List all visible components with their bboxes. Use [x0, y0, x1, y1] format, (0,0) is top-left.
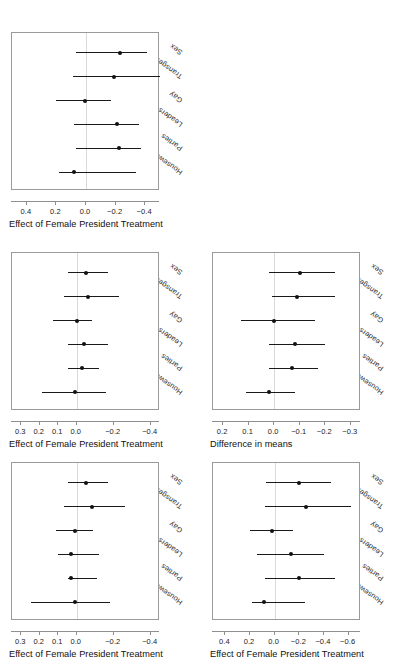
- x-axis-tick: [55, 201, 56, 205]
- estimate-point: [69, 576, 73, 580]
- zero-reference-line: [275, 463, 276, 619]
- x-axis-tick-label: −0.4: [315, 637, 330, 646]
- category-label: Parties: [159, 352, 184, 373]
- x-axis-title: Effect of Female President Treatment: [9, 439, 163, 449]
- x-axis-tick: [57, 631, 58, 635]
- estimate-point: [262, 600, 266, 604]
- x-axis-tick-label: 0.0: [268, 637, 279, 646]
- x-axis-tick-label: 0.1: [52, 427, 63, 436]
- x-axis-tick-label: −0.4: [137, 207, 152, 216]
- x-axis-tick-label: 0.3: [15, 427, 26, 436]
- x-axis-tick: [324, 421, 325, 425]
- category-label: Sex: [168, 472, 184, 487]
- estimate-point: [112, 75, 116, 79]
- category-label: Sex: [168, 42, 184, 57]
- plot-area: [11, 252, 159, 410]
- x-axis-title: Effect of Female President Treatment: [9, 649, 163, 657]
- estimate-point: [272, 319, 276, 323]
- x-axis-tick: [249, 631, 250, 635]
- x-axis-tick-label: 0.2: [217, 427, 228, 436]
- x-axis-tick: [113, 631, 114, 635]
- x-axis-tick: [350, 421, 351, 425]
- confidence-interval-line: [73, 76, 160, 77]
- estimate-point: [304, 505, 308, 509]
- x-axis-tick: [298, 631, 299, 635]
- estimate-point: [69, 552, 73, 556]
- x-axis-tick: [273, 421, 274, 425]
- x-axis-tick-label: −0.6: [340, 637, 355, 646]
- x-axis-tick: [348, 631, 349, 635]
- confidence-interval-line: [272, 296, 336, 297]
- x-axis-tick: [85, 201, 86, 205]
- estimate-point: [115, 122, 119, 126]
- forest-plot-figure: SexTransgenderGayLeadersPartiesHousework…: [0, 0, 405, 657]
- plot-area: [11, 462, 159, 620]
- estimate-point: [80, 366, 84, 370]
- x-axis-tick-label: 0.2: [33, 427, 44, 436]
- x-axis-tick-label: 0.2: [244, 637, 255, 646]
- confidence-interval-line: [74, 124, 139, 125]
- x-axis-tick: [39, 631, 40, 635]
- x-axis-tick-label: −0.2: [107, 207, 122, 216]
- confidence-interval-line: [59, 172, 136, 173]
- x-axis-tick-label: −0.3: [342, 427, 357, 436]
- estimate-point: [289, 552, 293, 556]
- confidence-interval-line: [64, 296, 120, 297]
- estimate-point: [290, 366, 294, 370]
- confidence-interval-line: [31, 602, 111, 603]
- x-axis-tick-label: 0.0: [70, 637, 81, 646]
- x-axis-line: [212, 421, 360, 422]
- confidence-interval-line: [53, 320, 92, 321]
- x-axis-tick-label: 0.1: [52, 637, 63, 646]
- category-label: Leaders: [156, 105, 184, 128]
- confidence-interval-line: [58, 554, 99, 555]
- plot-area: [212, 252, 360, 410]
- x-axis-title: Difference in means: [210, 439, 293, 449]
- confidence-interval-line: [64, 506, 125, 507]
- zero-reference-line: [86, 33, 87, 189]
- estimate-point: [270, 529, 274, 533]
- x-axis-tick: [26, 201, 27, 205]
- x-axis-tick: [76, 631, 77, 635]
- x-axis-tick-label: −0.4: [142, 637, 157, 646]
- x-axis-tick: [113, 421, 114, 425]
- category-label: Gay: [167, 310, 184, 325]
- confidence-interval-line: [265, 506, 351, 507]
- x-axis-tick-label: −0.4: [142, 427, 157, 436]
- confidence-interval-line: [269, 344, 325, 345]
- estimate-point: [267, 390, 271, 394]
- category-label: Parties: [360, 352, 385, 373]
- zero-reference-line: [77, 253, 78, 409]
- estimate-point: [75, 319, 79, 323]
- confidence-interval-line: [269, 272, 335, 273]
- zero-reference-line: [77, 463, 78, 619]
- estimate-point: [82, 342, 86, 346]
- x-axis-tick: [299, 421, 300, 425]
- x-axis-tick: [20, 631, 21, 635]
- category-label: Parties: [159, 562, 184, 583]
- confidence-interval-line: [241, 320, 315, 321]
- x-axis-line: [11, 421, 159, 422]
- estimate-point: [90, 505, 94, 509]
- x-axis-tick: [323, 631, 324, 635]
- x-axis-tick-label: −0.2: [105, 637, 120, 646]
- x-axis-tick: [20, 421, 21, 425]
- x-axis-tick: [115, 201, 116, 205]
- zero-reference-line: [274, 253, 275, 409]
- estimate-point: [86, 295, 90, 299]
- x-axis-tick: [57, 421, 58, 425]
- category-label: Leaders: [156, 325, 184, 348]
- x-axis-tick-label: 0.2: [33, 637, 44, 646]
- estimate-point: [297, 576, 301, 580]
- x-axis-tick: [248, 421, 249, 425]
- estimate-point: [72, 170, 76, 174]
- x-axis-title: Effect of Female President Treatment: [210, 649, 364, 657]
- estimate-point: [84, 481, 88, 485]
- x-axis-tick-label: 0.0: [80, 207, 91, 216]
- category-label: Gay: [167, 90, 184, 105]
- x-axis-line: [212, 631, 360, 632]
- confidence-interval-line: [252, 602, 305, 603]
- estimate-point: [293, 342, 297, 346]
- x-axis-tick: [150, 421, 151, 425]
- category-label: Gay: [368, 310, 385, 325]
